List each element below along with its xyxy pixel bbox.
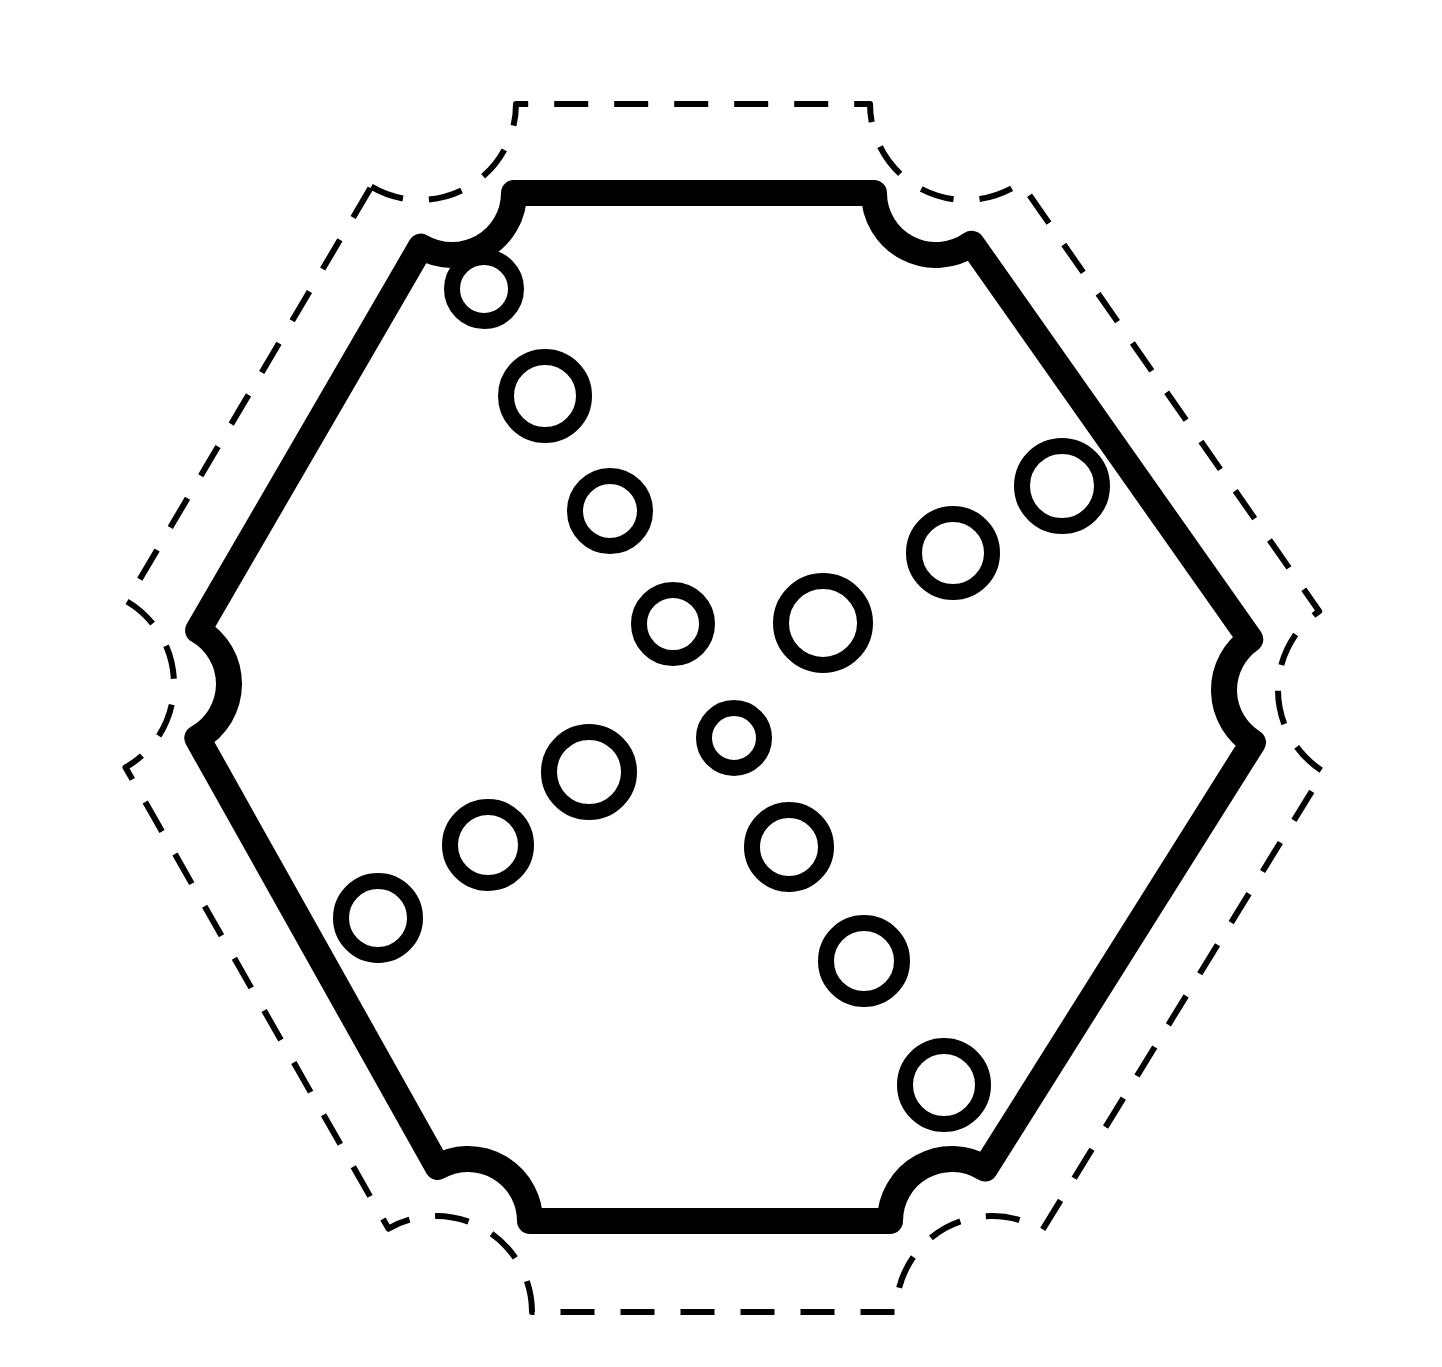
hexagon-diagram-svg (0, 0, 1442, 1367)
diagram-canvas (0, 0, 1442, 1367)
